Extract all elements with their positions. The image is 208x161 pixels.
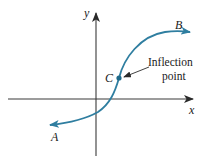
x-axis-label: x xyxy=(188,103,195,117)
inflection-point-diagram: y x B A C Inflection point xyxy=(0,0,208,161)
annotation-line-1: Inflection xyxy=(148,56,193,68)
y-axis-label: y xyxy=(83,6,90,20)
end-label-b: B xyxy=(175,18,183,32)
graph-canvas: y x B A C Inflection point xyxy=(0,0,208,161)
inflection-point-marker xyxy=(116,75,121,80)
point-label-c: C xyxy=(105,71,114,85)
curve-lower xyxy=(50,78,119,125)
annotation-line-2: point xyxy=(162,70,186,83)
start-label-a: A xyxy=(50,130,59,144)
annotation-pointer xyxy=(124,67,149,77)
